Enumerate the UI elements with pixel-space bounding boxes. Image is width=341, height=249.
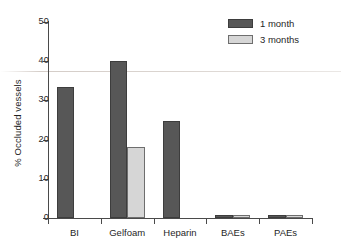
bar bbox=[110, 61, 128, 218]
legend-swatch-icon-series-2 bbox=[228, 35, 253, 44]
y-axis-tick-label: 50 bbox=[27, 17, 49, 26]
bar bbox=[57, 87, 75, 218]
bar bbox=[127, 147, 145, 218]
x-axis-tick-mark bbox=[206, 218, 207, 224]
legend-item-3-months: 3 months bbox=[228, 33, 299, 46]
y-axis-tick: 10 bbox=[0, 179, 49, 180]
y-axis-tick-label: 20 bbox=[27, 135, 49, 144]
y-axis-tick-label: 40 bbox=[27, 56, 49, 65]
y-axis-tick: 30 bbox=[0, 100, 49, 101]
bar bbox=[286, 215, 304, 218]
y-axis-title: % Occluded vessels bbox=[13, 58, 23, 188]
legend-item-1-month: 1 month bbox=[228, 17, 299, 30]
y-axis-tick: 20 bbox=[0, 140, 49, 141]
bar bbox=[268, 215, 286, 218]
bar-chart: 01020304050 % Occluded vessels BIGelfoam… bbox=[0, 0, 341, 249]
legend-swatch-icon-series-1 bbox=[228, 19, 253, 28]
bar bbox=[233, 215, 251, 218]
legend-label-series-1: 1 month bbox=[260, 19, 294, 29]
legend-label-series-2: 3 months bbox=[260, 35, 299, 45]
bar bbox=[163, 121, 181, 218]
x-axis-tick-mark bbox=[312, 218, 313, 224]
x-axis-tick-mark bbox=[259, 218, 260, 224]
y-axis-tick-label: 10 bbox=[27, 174, 49, 183]
y-axis-tick-label: 30 bbox=[27, 95, 49, 104]
bar bbox=[215, 215, 233, 218]
legend: 1 month 3 months bbox=[228, 17, 299, 49]
y-axis-tick: 40 bbox=[0, 61, 49, 62]
x-axis-line bbox=[48, 218, 312, 219]
x-axis-tick-mark bbox=[101, 218, 102, 224]
x-axis-tick-mark bbox=[154, 218, 155, 224]
y-axis-tick: 50 bbox=[0, 22, 49, 23]
plot-area bbox=[48, 22, 312, 218]
y-axis-tick: 0 bbox=[0, 218, 49, 219]
y-axis-tick-label: 0 bbox=[27, 213, 49, 222]
x-axis-tick-mark bbox=[48, 218, 49, 224]
x-axis-category-label: PAEs bbox=[246, 228, 326, 238]
